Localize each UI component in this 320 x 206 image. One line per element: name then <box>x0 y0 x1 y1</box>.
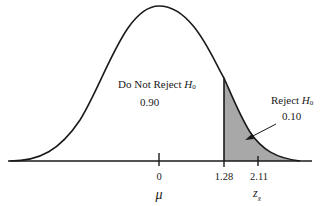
z-stat-label: zx̄ <box>252 186 262 203</box>
tick-label-0: 0 <box>156 171 161 182</box>
tick-label-2-11: 2.11 <box>250 171 268 182</box>
accept-region-label: Do Not Reject H0 <box>118 78 196 91</box>
accept-region-value: 0.90 <box>140 96 160 108</box>
reject-region-label: Reject H0 <box>271 94 314 107</box>
mu-label: μ <box>154 187 162 202</box>
reject-arrow <box>251 124 276 137</box>
tick-label-1-28: 1.28 <box>215 171 233 182</box>
normal-distribution-chart: Do Not Reject H0 0.90 Reject H0 0.10 0 1… <box>0 0 320 206</box>
reject-region-value: 0.10 <box>282 110 302 122</box>
